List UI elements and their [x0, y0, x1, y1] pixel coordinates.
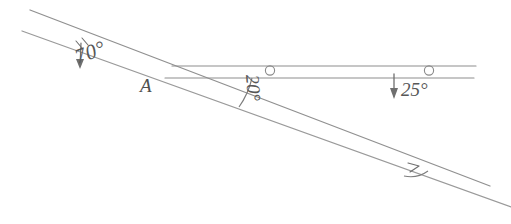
diagram-canvas [0, 0, 511, 224]
geometry-diagram: 70° A 20° 25° [0, 0, 511, 224]
vertex-label-a: A [140, 76, 152, 95]
circle-mark-right [424, 66, 433, 75]
angle-label-20: 20° [243, 74, 264, 102]
angle-label-25: 25° [401, 80, 428, 99]
circle-mark-left [265, 66, 274, 75]
